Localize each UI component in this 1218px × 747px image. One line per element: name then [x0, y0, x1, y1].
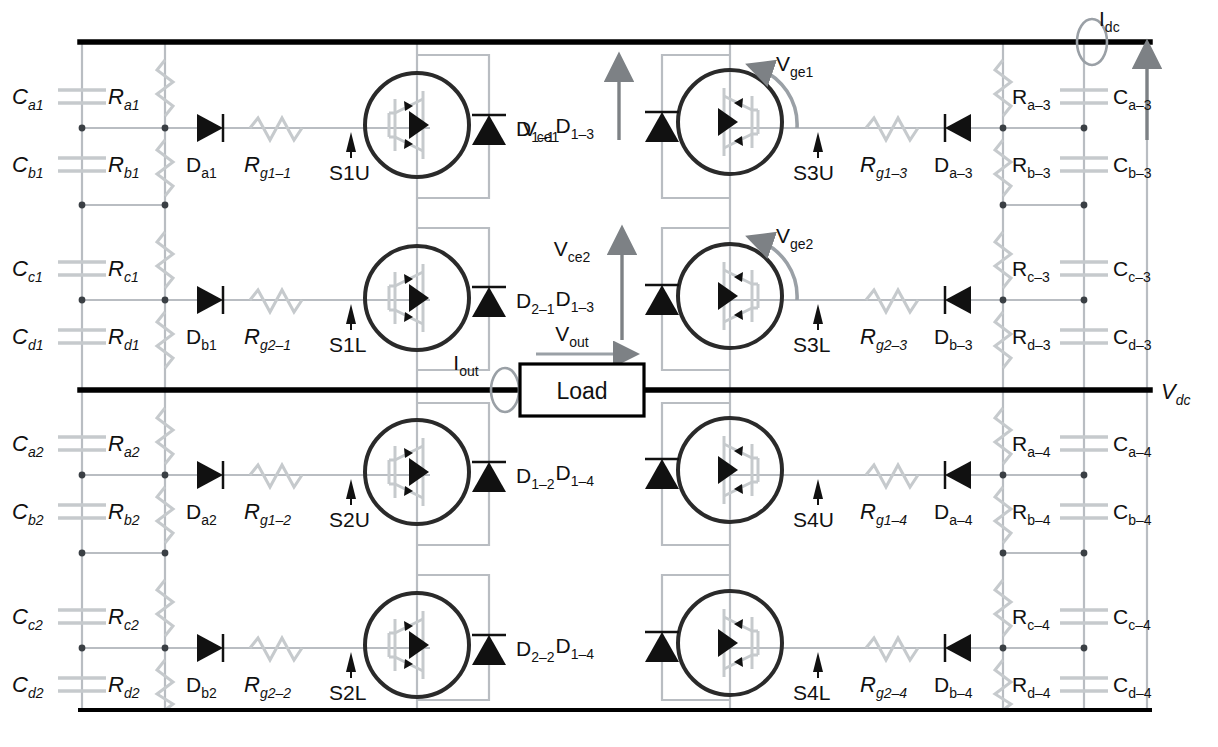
freewheel-diode-left-bot: [472, 635, 506, 665]
gate-arrow-s3u: [813, 132, 823, 158]
label-vce2: Vce2: [554, 237, 591, 265]
gate-arrow-s2l: [346, 652, 356, 678]
label-switch-s4l: S4L: [793, 681, 830, 704]
gate-diode-db4: [945, 634, 971, 662]
label-diode-da3: Da–3: [934, 153, 973, 181]
label-diode-db1: Db1: [186, 325, 217, 353]
label-res-a1: Ra1: [108, 84, 139, 113]
label-cap-c1: Cc1: [12, 256, 43, 285]
label-fwd-d2-2: D2–2: [516, 637, 555, 665]
freewheel-diode-right-low: [645, 459, 679, 489]
gate-diode-db1: [197, 286, 223, 314]
label-gateres-g1-2: Rg1–2: [244, 499, 291, 528]
gate-arrow-s3l: [813, 304, 823, 330]
gate-arrow-s1u: [346, 132, 356, 158]
label-iout: Iout: [453, 351, 478, 379]
label-fwd-d2-1: D2–1: [516, 289, 555, 317]
freewheel-diode-left-top: [472, 115, 506, 145]
freewheel-diode-right-bot: [645, 632, 679, 662]
label-res-c4: Rc–4: [1012, 605, 1050, 633]
label-gateres-g1-1: Rg1–1: [244, 152, 291, 181]
label-res-d4: Rd–4: [1012, 673, 1051, 701]
label-fwd-d1-2: D1–2: [516, 464, 555, 492]
label-diode-db4: Db–4: [934, 673, 973, 701]
label-res-b2: Rb2: [108, 499, 140, 528]
label-res-d2: Rd2: [108, 672, 140, 701]
label-gateres-g2-3: Rg2–3: [860, 324, 907, 353]
label-diode-db2: Db2: [186, 673, 217, 701]
gate-diode-db2: [197, 634, 223, 662]
label-res-a3: Ra–3: [1012, 85, 1051, 113]
label-cap-c3: Cc–3: [1113, 257, 1151, 285]
label-cap-c4: Cc–4: [1113, 605, 1151, 633]
label-switch-s3u: S3U: [793, 161, 834, 184]
label-vout: Vout: [555, 322, 589, 350]
label-switch-s1u: S1U: [329, 161, 370, 184]
gate-arrow-s4l: [813, 652, 823, 678]
circuit-schematic: Load Ca1 Cb1 Cc1 Cd1 Ca2 Cb2 Cc2 Cd2 Ra1…: [0, 0, 1218, 747]
label-fwd-d1-4-low: D1–4: [555, 461, 594, 489]
label-res-a4: Ra–4: [1012, 432, 1051, 460]
label-res-c2: Rc2: [108, 604, 139, 633]
label-res-c3: Rc–3: [1012, 257, 1050, 285]
label-res-c1: Rc1: [108, 256, 139, 285]
label-res-b4: Rb–4: [1012, 500, 1051, 528]
label-vdc: Vdc: [1161, 379, 1190, 408]
label-res-b1: Rb1: [108, 152, 139, 181]
gate-arrow-s4u: [813, 479, 823, 505]
label-gateres-g2-1: Rg2–1: [244, 324, 291, 353]
label-vge1: Vge1: [776, 52, 814, 80]
label-switch-s2l: S2L: [329, 681, 366, 704]
label-cap-a2: Ca2: [12, 431, 44, 460]
freewheel-diode-left-mid: [472, 287, 506, 317]
label-diode-da4: Da–4: [934, 500, 973, 528]
gate-diode-da4: [945, 461, 971, 489]
label-res-b3: Rb–3: [1012, 153, 1051, 181]
freewheel-diode-right-mid: [645, 285, 679, 315]
label-switch-s1l: S1L: [329, 333, 366, 356]
load-label: Load: [556, 378, 607, 404]
gate-diode-da1: [197, 114, 223, 142]
label-cap-d1: Cd1: [12, 324, 43, 353]
label-diode-da1: Da1: [186, 153, 217, 181]
label-fwd-d1-4-bot: D1–4: [555, 634, 594, 662]
label-gateres-g1-4: Rg1–4: [860, 499, 907, 528]
label-idc: Idc: [1099, 7, 1120, 35]
label-switch-s2u: S2U: [329, 508, 370, 531]
freewheel-diode-right-top: [645, 112, 679, 142]
label-vce1: Vce1: [523, 117, 560, 145]
gate-diode-da2: [197, 461, 223, 489]
label-res-d1: Rd1: [108, 324, 139, 353]
freewheel-diode-left-low: [472, 462, 506, 492]
label-switch-s3l: S3L: [793, 333, 830, 356]
label-cap-c2: Cc2: [12, 604, 43, 633]
label-diode-db3: Db–3: [934, 325, 973, 353]
label-res-a2: Ra2: [108, 431, 140, 460]
label-gateres-g1-3: Rg1–3: [860, 152, 907, 181]
circuit-diagram-canvas: Load Ca1 Cb1 Cc1 Cd1 Ca2 Cb2 Cc2 Cd2 Ra1…: [0, 0, 1218, 747]
label-gateres-g2-2: Rg2–2: [244, 672, 291, 701]
gate-diode-db3: [945, 286, 971, 314]
label-fwd-d1-3-top: D1–3: [555, 114, 594, 142]
label-diode-da2: Da2: [186, 500, 217, 528]
gate-arrow-s1l: [346, 304, 356, 330]
label-gateres-g2-4: Rg2–4: [860, 672, 907, 701]
gate-arrow-s2u: [346, 479, 356, 505]
label-fwd-d1-3-mid: D1–3: [555, 287, 594, 315]
label-switch-s4u: S4U: [793, 508, 834, 531]
load-block: Load: [520, 364, 644, 416]
gate-diode-da3: [945, 114, 971, 142]
label-cap-a1: Ca1: [12, 84, 43, 113]
label-vge2: Vge2: [776, 224, 814, 252]
label-cap-d2: Cd2: [12, 672, 44, 701]
label-cap-b2: Cb2: [12, 499, 44, 528]
label-res-d3: Rd–3: [1012, 325, 1051, 353]
label-cap-b1: Cb1: [12, 152, 43, 181]
